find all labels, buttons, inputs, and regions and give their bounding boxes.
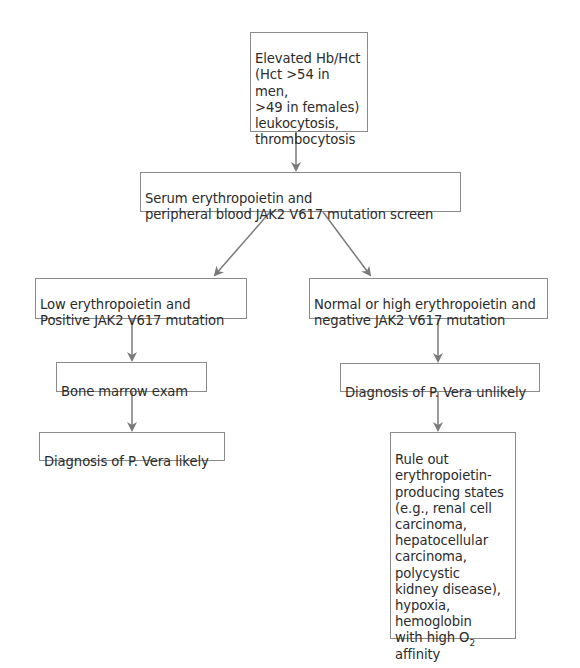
node-text: Normal or high erythropoietin and negati… bbox=[314, 297, 536, 328]
node-text: Elevated Hb/Hct (Hct >54 in men, >49 in … bbox=[255, 51, 360, 147]
node-text: Diagnosis of P. Vera unlikely bbox=[345, 385, 526, 400]
node-serum-epo-jak2-screen: Serum erythropoietin and peripheral bloo… bbox=[140, 172, 461, 212]
node-high-epo-negative-jak2: Normal or high erythropoietin and negati… bbox=[309, 278, 548, 319]
node-pvera-unlikely: Diagnosis of P. Vera unlikely bbox=[340, 363, 540, 392]
node-text: Low erythropoietin and Positive JAK2 V61… bbox=[40, 297, 224, 328]
node-text-tail: affinity bbox=[395, 647, 440, 662]
node-text: Rule out erythropoietin- producing state… bbox=[395, 452, 504, 645]
node-rule-out-epo-states: Rule out erythropoietin- producing state… bbox=[390, 432, 516, 639]
node-text: Serum erythropoietin and peripheral bloo… bbox=[145, 191, 433, 222]
node-bone-marrow-exam: Bone marrow exam bbox=[56, 362, 207, 392]
node-subscript: 2 bbox=[469, 638, 475, 648]
node-pvera-likely: Diagnosis of P. Vera likely bbox=[39, 432, 225, 461]
node-text: Diagnosis of P. Vera likely bbox=[44, 454, 209, 469]
node-elevated-hb-hct: Elevated Hb/Hct (Hct >54 in men, >49 in … bbox=[250, 32, 368, 132]
node-text: Bone marrow exam bbox=[61, 384, 188, 399]
node-low-epo-positive-jak2: Low erythropoietin and Positive JAK2 V61… bbox=[35, 278, 247, 319]
